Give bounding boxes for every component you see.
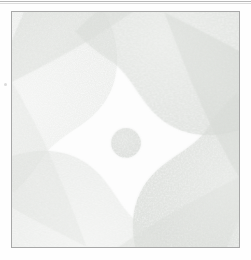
top-rule-line: [0, 1, 251, 2]
margin-ink-speck: [4, 83, 7, 86]
ruled-frame-border: [11, 11, 240, 248]
center-boss: [111, 128, 141, 158]
top-rule-line-secondary: [0, 3, 251, 4]
scanned-page: Four-fold floral rosette Faded scanned p…: [0, 0, 251, 260]
rosette-artwork: [12, 12, 239, 247]
